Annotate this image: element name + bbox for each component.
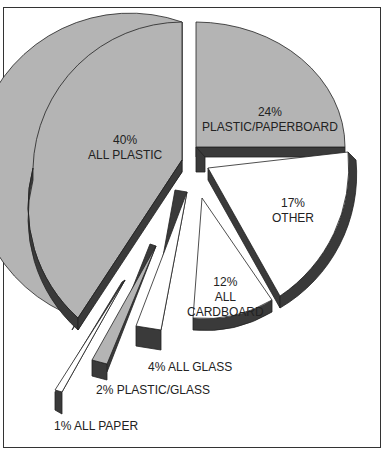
label-plastic-glass: 2% PLASTIC/GLASS (96, 383, 210, 398)
label-all-cardboard: 12% ALL CARDBOARD (187, 275, 264, 320)
label-all-paper: 1% ALL PAPER (54, 419, 138, 434)
label-pct: 24% (202, 105, 338, 120)
label-plastic-paperboard: 24% PLASTIC/PAPERBOARD (202, 105, 338, 135)
label-name: OTHER (272, 211, 314, 226)
label-name: ALL PLASTIC (88, 148, 162, 163)
label-all-glass: 4% ALL GLASS (148, 360, 232, 375)
label-pct: 12% (187, 275, 264, 290)
label-name-2: CARDBOARD (187, 305, 264, 320)
label-name: ALL (187, 290, 264, 305)
label-pct: 40% (88, 133, 162, 148)
label-name: PLASTIC/PAPERBOARD (202, 120, 338, 135)
label-pct: 17% (272, 196, 314, 211)
label-other: 17% OTHER (272, 196, 314, 226)
slice-plastic-paperboard (196, 22, 345, 172)
label-all-plastic: 40% ALL PLASTIC (88, 133, 162, 163)
